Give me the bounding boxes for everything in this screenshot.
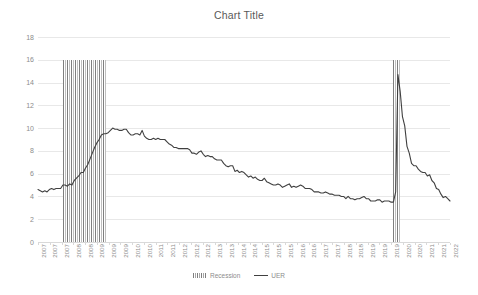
x-tick-label-32: 2020: [417, 244, 423, 258]
x-tick-label-10: 2011: [158, 244, 164, 257]
x-tick-label-21: 2015: [288, 244, 294, 258]
x-tick-label-0: 2007: [41, 244, 47, 258]
x-tick-label-11: 2011: [170, 244, 176, 257]
x-tick-label-24: 2017: [323, 244, 329, 258]
y-tick-label-0: 0: [10, 239, 34, 246]
x-tick-label-17: 2014: [241, 244, 247, 258]
x-tick-label-3: 2008: [76, 244, 82, 258]
x-tick-label-29: 2019: [382, 244, 388, 258]
x-tick-label-31: 2020: [406, 244, 412, 258]
x-tick-label-1: 2007: [52, 244, 58, 258]
x-tick-label-20: 2015: [276, 244, 282, 258]
legend-item-uer[interactable]: UER: [254, 272, 285, 279]
x-tick-label-5: 2009: [99, 244, 105, 258]
x-tick-label-2: 2007: [64, 244, 70, 258]
x-tick-label-18: 2014: [252, 244, 258, 258]
legend-item-recession[interactable]: Recession: [193, 272, 240, 279]
y-tick-label-6: 6: [10, 170, 34, 177]
x-tick-label-8: 2010: [135, 244, 141, 258]
x-tick-label-14: 2012: [205, 244, 211, 258]
y-axis: 181614121086420: [6, 37, 34, 242]
x-tick-label-13: 2012: [194, 244, 200, 258]
x-tick-label-6: 2009: [111, 244, 117, 258]
x-tick-label-30: 2019: [394, 244, 400, 258]
y-tick-label-16: 16: [10, 56, 34, 63]
chart-legend: Recession UER: [0, 272, 478, 279]
x-tickmark-35: [450, 243, 451, 245]
line-swatch-icon: [254, 275, 268, 276]
x-tick-label-35: 2022: [453, 244, 459, 258]
x-tick-label-22: 2016: [300, 244, 306, 258]
recession-swatch-icon: [193, 273, 207, 278]
x-tick-label-9: 2010: [147, 244, 153, 258]
plot-area: [38, 37, 450, 242]
y-tick-label-12: 12: [10, 102, 34, 109]
x-tick-label-33: 2021: [429, 244, 435, 258]
x-tick-label-16: 2013: [229, 244, 235, 258]
y-tick-label-10: 10: [10, 125, 34, 132]
y-tick-label-14: 14: [10, 79, 34, 86]
x-tick-label-27: 2018: [358, 244, 364, 258]
x-tick-label-23: 2016: [311, 244, 317, 258]
x-tick-label-15: 2013: [217, 244, 223, 258]
y-tick-label-2: 2: [10, 216, 34, 223]
x-tick-label-19: 2015: [264, 244, 270, 258]
x-tick-label-25: 2017: [335, 244, 341, 258]
y-tick-label-18: 18: [10, 34, 34, 41]
x-tick-label-12: 2012: [182, 244, 188, 258]
chart-title: Chart Title: [0, 9, 478, 21]
y-tick-label-8: 8: [10, 147, 34, 154]
legend-label-recession: Recession: [210, 272, 240, 279]
y-tick-label-4: 4: [10, 193, 34, 200]
chart-container: Chart Title 181614121086420 200720072007…: [0, 0, 478, 295]
x-tick-label-4: 2008: [88, 244, 94, 258]
x-axis: 2007200720072008200820092009200920102010…: [38, 244, 450, 274]
uer-series-line: [38, 37, 450, 242]
x-tick-label-28: 2019: [370, 244, 376, 258]
legend-label-uer: UER: [271, 272, 285, 279]
x-tick-label-7: 2009: [123, 244, 129, 258]
x-tick-label-26: 2018: [347, 244, 353, 258]
x-tick-label-34: 2021: [441, 244, 447, 258]
